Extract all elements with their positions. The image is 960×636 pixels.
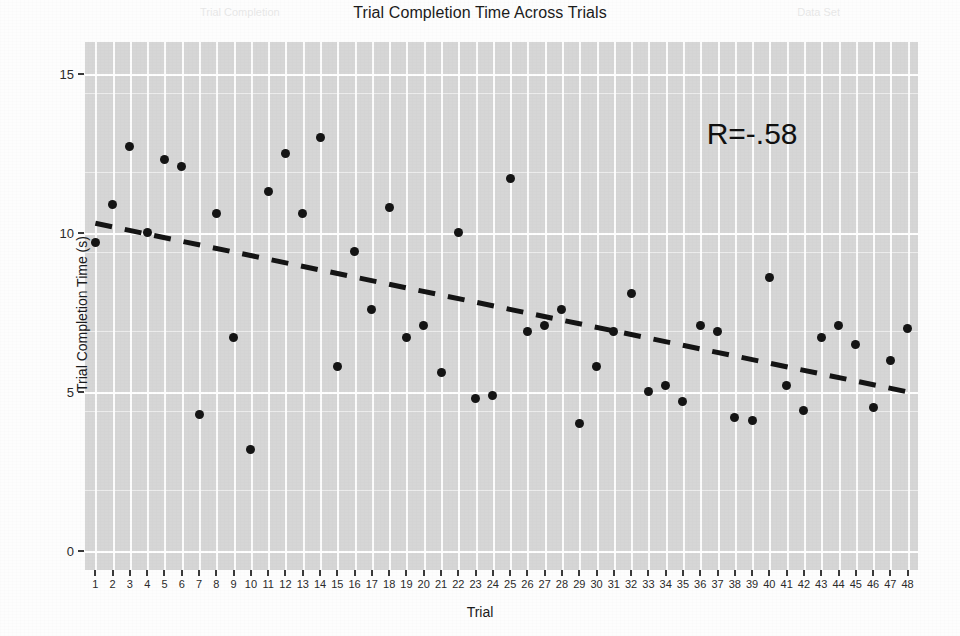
x-tick-label: 22 (452, 578, 464, 590)
x-tick-mark (129, 570, 131, 576)
x-tick-label: 46 (867, 578, 879, 590)
data-point (195, 410, 204, 419)
x-tick-mark (717, 570, 719, 576)
x-tick-mark (509, 570, 511, 576)
x-tick-label: 25 (504, 578, 516, 590)
data-point (713, 327, 722, 336)
x-tick-label: 43 (815, 578, 827, 590)
x-tick-label: 21 (435, 578, 447, 590)
x-tick-label: 11 (262, 578, 273, 590)
y-tick-mark (78, 550, 84, 552)
x-tick-label: 28 (556, 578, 568, 590)
data-point (333, 362, 342, 371)
data-point (385, 203, 394, 212)
x-tick-label: 18 (383, 578, 395, 590)
correlation-annotation: R=-.58 (707, 117, 798, 151)
x-tick-label: 45 (850, 578, 862, 590)
x-tick-label: 29 (573, 578, 585, 590)
x-tick-label: 40 (763, 578, 775, 590)
x-tick-mark (526, 570, 528, 576)
x-tick-mark (492, 570, 494, 576)
x-tick-label: 3 (127, 578, 133, 590)
x-tick-mark (440, 570, 442, 576)
x-tick-label: 12 (279, 578, 291, 590)
x-tick-mark (768, 570, 770, 576)
x-tick-label: 47 (884, 578, 896, 590)
x-tick-mark (734, 570, 736, 576)
x-tick-mark (751, 570, 753, 576)
x-tick-mark (423, 570, 425, 576)
x-tick-label: 24 (487, 578, 499, 590)
x-tick-mark (786, 570, 788, 576)
y-tick-mark (78, 73, 84, 75)
data-point (869, 403, 878, 412)
x-tick-mark (665, 570, 667, 576)
x-tick-mark (112, 570, 114, 576)
x-tick-label: 27 (539, 578, 551, 590)
x-tick-mark (233, 570, 235, 576)
x-tick-label: 14 (314, 578, 326, 590)
data-point (834, 321, 843, 330)
x-tick-mark (647, 570, 649, 576)
data-point (143, 228, 152, 237)
x-tick-label: 2 (110, 578, 116, 590)
x-tick-label: 5 (161, 578, 167, 590)
data-point (437, 368, 446, 377)
x-tick-mark (336, 570, 338, 576)
x-tick-label: 13 (297, 578, 309, 590)
x-tick-mark (94, 570, 96, 576)
x-tick-mark (405, 570, 407, 576)
chart-title: Trial Completion Time Across Trials (0, 4, 960, 22)
x-tick-mark (388, 570, 390, 576)
x-tick-label: 36 (694, 578, 706, 590)
x-tick-label: 23 (469, 578, 481, 590)
x-tick-label: 6 (179, 578, 185, 590)
x-tick-label: 15 (331, 578, 343, 590)
x-tick-mark (215, 570, 217, 576)
x-tick-mark (820, 570, 822, 576)
x-tick-label: 7 (196, 578, 202, 590)
x-tick-mark (699, 570, 701, 576)
y-tick-label: 0 (44, 543, 74, 558)
x-tick-mark (630, 570, 632, 576)
x-tick-mark (889, 570, 891, 576)
data-point (246, 445, 255, 454)
data-point (886, 356, 895, 365)
x-tick-mark (457, 570, 459, 576)
data-point (903, 324, 912, 333)
data-point (177, 162, 186, 171)
x-tick-mark (371, 570, 373, 576)
x-tick-mark (267, 570, 269, 576)
x-tick-mark (803, 570, 805, 576)
data-point (506, 174, 515, 183)
x-tick-mark (578, 570, 580, 576)
x-tick-mark (146, 570, 148, 576)
x-tick-mark (319, 570, 321, 576)
x-tick-label: 19 (400, 578, 412, 590)
x-tick-label: 26 (521, 578, 533, 590)
x-tick-label: 30 (590, 578, 602, 590)
x-tick-mark (682, 570, 684, 576)
data-point (316, 133, 325, 142)
x-tick-label: 1 (92, 578, 98, 590)
y-tick-label: 5 (44, 384, 74, 399)
data-point (592, 362, 601, 371)
data-point (696, 321, 705, 330)
y-tick-label: 15 (44, 66, 74, 81)
x-tick-label: 9 (231, 578, 237, 590)
x-tick-label: 48 (902, 578, 914, 590)
x-tick-label: 38 (729, 578, 741, 590)
data-point (765, 273, 774, 282)
x-tick-mark (855, 570, 857, 576)
x-tick-label: 44 (832, 578, 844, 590)
x-tick-mark (838, 570, 840, 576)
x-tick-mark (872, 570, 874, 576)
x-tick-label: 31 (608, 578, 620, 590)
data-point (851, 340, 860, 349)
x-tick-mark (181, 570, 183, 576)
x-tick-label: 17 (366, 578, 378, 590)
x-tick-mark (198, 570, 200, 576)
x-tick-mark (284, 570, 286, 576)
data-point (488, 391, 497, 400)
x-tick-mark (544, 570, 546, 576)
